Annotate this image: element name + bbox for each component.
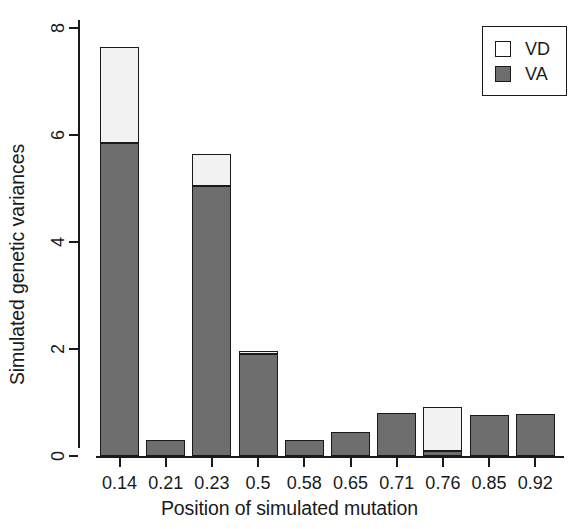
x-axis-tick-label: 0.14 [102, 473, 137, 494]
x-axis-tick [396, 458, 398, 467]
x-axis-tick-label: 0.5 [246, 473, 271, 494]
bar-segment-va [331, 432, 370, 456]
y-axis-tick: 2 [69, 348, 78, 350]
y-axis-tick: 0 [69, 455, 78, 457]
chart-figure: Simulated genetic variances Position of … [0, 0, 579, 529]
x-axis-tick [488, 458, 490, 467]
y-axis-tick-label: 4 [49, 237, 67, 247]
x-axis-tick-label: 0.76 [425, 473, 460, 494]
open-square-icon [495, 41, 511, 57]
chart-legend: VD VA [482, 26, 567, 96]
x-axis-tick-label: 0.58 [287, 473, 322, 494]
bar-segment-va [285, 440, 324, 456]
x-axis-tick [350, 458, 352, 467]
y-axis-tick: 8 [69, 27, 78, 29]
legend-label-va: VA [525, 65, 548, 83]
x-axis-tick [534, 458, 536, 467]
y-axis-tick: 4 [69, 241, 78, 243]
legend-label-vd: VD [525, 40, 550, 58]
bar [516, 414, 555, 456]
bar [239, 351, 278, 456]
bar-segment-va [516, 414, 555, 456]
x-axis-tick [257, 458, 259, 467]
bar-segment-va [423, 451, 462, 456]
bar-segment-va [239, 354, 278, 456]
x-axis-tick-label: 0.23 [194, 473, 229, 494]
bar [331, 432, 370, 456]
y-axis-tick-label: 6 [49, 130, 67, 140]
x-axis-tick [211, 458, 213, 467]
x-axis-tick [442, 458, 444, 467]
bar-segment-vd [192, 154, 231, 186]
y-axis-title: Simulated genetic variances [0, 0, 34, 529]
legend-item-va: VA [495, 61, 550, 86]
bar-segment-va [146, 440, 185, 456]
bar-segment-va [470, 415, 509, 456]
bar [146, 440, 185, 456]
bar-segment-va [377, 413, 416, 456]
bar-segment-va [192, 186, 231, 456]
bar [470, 415, 509, 456]
bar-segment-vd [100, 47, 139, 143]
x-axis-tick-label: 0.21 [148, 473, 183, 494]
y-axis-tick: 6 [69, 134, 78, 136]
bar [423, 407, 462, 456]
y-axis-line [78, 20, 80, 448]
bar-segment-va [100, 143, 139, 456]
x-axis-tick-label: 0.85 [472, 473, 507, 494]
x-axis-tick-label: 0.71 [379, 473, 414, 494]
bar-segment-vd [239, 351, 278, 355]
x-axis-tick [303, 458, 305, 467]
bar-segment-vd [423, 407, 462, 451]
y-axis-tick-label: 2 [49, 344, 67, 354]
x-axis-tick [165, 458, 167, 467]
x-axis-tick-label: 0.92 [518, 473, 553, 494]
y-axis-tick-label: 8 [49, 23, 67, 33]
bar [192, 154, 231, 456]
legend-item-vd: VD [495, 36, 550, 61]
x-axis-tick-label: 0.65 [333, 473, 368, 494]
bar [100, 47, 139, 456]
bar [377, 413, 416, 456]
y-axis-tick-label: 0 [49, 451, 67, 461]
x-axis-tick [119, 458, 121, 467]
x-axis-title: Position of simulated mutation [0, 497, 579, 520]
filled-square-icon [495, 66, 511, 82]
bar [285, 440, 324, 456]
